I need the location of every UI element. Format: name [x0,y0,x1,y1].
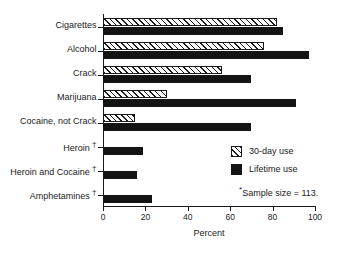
category-label-text: Marijuana [57,92,97,102]
x-tick-label-100: 100 [300,212,330,222]
hatched-swatch-icon [231,146,242,157]
x-tick-label-20: 20 [130,212,160,222]
x-tick-80 [273,206,274,211]
bar-lifetime-0 [103,27,283,35]
category-label-2: Crack [0,68,99,78]
x-tick-60 [230,206,231,211]
x-tick-40 [188,206,189,211]
bar-chart: 020406080100 Cigarettes Alcohol Crack Ma… [0,0,343,256]
bar-30-day-4 [103,114,135,122]
bar-lifetime-4 [103,123,251,131]
category-label-5: Heroin † [0,140,99,153]
sample-size-footnote: *Sample size = 113. [239,185,318,198]
x-axis-line [103,206,315,207]
bar-lifetime-5 [103,147,143,155]
bar-lifetime-1 [103,51,309,59]
bar-lifetime-3 [103,99,296,107]
x-tick-20 [145,206,146,211]
category-label-text: Cocaine, not Crack [20,116,97,126]
bar-30-day-3 [103,90,167,98]
bar-lifetime-2 [103,75,251,83]
x-tick-label-80: 80 [258,212,288,222]
footnote-text: Sample size = 113. [242,188,318,198]
x-axis-title: Percent [103,228,315,238]
category-label-7: Amphetamines † [0,188,99,201]
category-label-text: Alcohol [67,44,97,54]
x-tick-100 [315,206,316,211]
category-label-1: Alcohol [0,44,99,54]
category-label-text: Crack [73,68,97,78]
category-label-6: Heroin and Cocaine † [0,164,99,177]
category-label-3: Marijuana [0,92,99,102]
category-label-4: Cocaine, not Crack [0,116,99,126]
legend-label-lifetime-use: Lifetime use [249,164,298,174]
category-label-text: Heroin [63,143,90,153]
bar-30-day-1 [103,42,264,50]
category-label-text: Cigarettes [55,20,96,30]
x-tick-label-60: 60 [215,212,245,222]
x-tick-label-0: 0 [88,212,118,222]
x-tick-0 [103,206,104,211]
bar-30-day-2 [103,66,222,74]
solid-swatch-icon [231,164,242,175]
bar-30-day-0 [103,18,277,26]
legend-label-30-day-use: 30-day use [249,146,294,156]
category-label-0: Cigarettes [0,20,99,30]
x-tick-label-40: 40 [173,212,203,222]
category-label-text: Heroin and Cocaine [10,167,90,177]
bar-lifetime-6 [103,171,137,179]
category-label-text: Amphetamines [30,191,90,201]
bar-lifetime-7 [103,195,152,203]
